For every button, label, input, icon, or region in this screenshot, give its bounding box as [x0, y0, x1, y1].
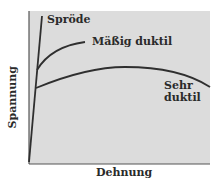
curve-maessig-duktil [37, 42, 85, 70]
y-axis-label: Spannung [6, 69, 19, 129]
label-sehr-duktil: Sehr duktil [164, 80, 201, 104]
curve-sprode [29, 16, 42, 162]
label-sprode: Spröde [47, 14, 90, 26]
x-axis-label: Dehnung [96, 166, 152, 179]
label-sehr-line2: duktil [164, 92, 201, 104]
label-maessig-duktil: Mäßig duktil [92, 36, 172, 48]
